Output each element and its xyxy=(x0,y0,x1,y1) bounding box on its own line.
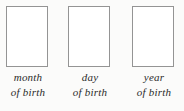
month-of-birth-label: month of birth xyxy=(0,70,58,99)
field-group-day: day of birth xyxy=(60,0,120,111)
month-of-birth-input[interactable] xyxy=(6,6,48,67)
year-of-birth-label-line-1: year xyxy=(124,70,184,85)
month-of-birth-label-line-1: month xyxy=(0,70,58,85)
day-of-birth-input[interactable] xyxy=(68,6,110,67)
field-group-year: year of birth xyxy=(124,0,184,111)
year-of-birth-label: year of birth xyxy=(124,70,184,99)
day-of-birth-label-line-1: day xyxy=(60,70,120,85)
field-group-month: month of birth xyxy=(0,0,58,111)
year-of-birth-label-line-2: of birth xyxy=(124,85,184,100)
month-of-birth-label-line-2: of birth xyxy=(0,85,58,100)
year-of-birth-input[interactable] xyxy=(132,6,174,67)
day-of-birth-label: day of birth xyxy=(60,70,120,99)
day-of-birth-label-line-2: of birth xyxy=(60,85,120,100)
date-of-birth-form: month of birth day of birth year of birt… xyxy=(0,0,184,111)
